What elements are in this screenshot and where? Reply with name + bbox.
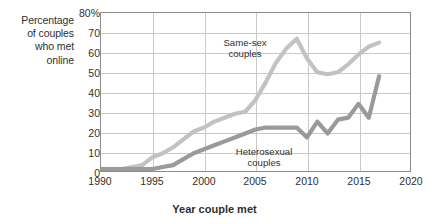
y-tick-80: 80% [66,8,100,18]
y-tick-70: 70 [74,28,100,38]
annotation-heterosexual-couples: Heterosexual couples [221,146,307,168]
x-tick-2010: 2010 [287,176,327,187]
x-tick-1990: 1990 [80,176,120,187]
plot-area: Same-sex couples Heterosexual couples [100,12,411,172]
y-axis-caption-line-1: Percentage [2,14,74,27]
annotation-same-sex-line-2: couples [209,48,281,59]
y-tick-30: 30 [74,108,100,118]
y-axis-caption-line-4: online [2,54,74,67]
y-axis-caption-line-2: of couples [2,27,74,40]
x-tick-2005: 2005 [235,176,275,187]
y-tick-60: 60 [74,48,100,58]
annotation-heterosexual-line-1: Heterosexual [236,146,293,157]
chart-container: Percentage of couples who met online 80%… [0,0,429,224]
annotation-same-sex-couples: Same-sex couples [209,37,281,59]
x-tick-2020: 2020 [391,176,429,187]
annotation-heterosexual-line-2: couples [221,157,307,168]
x-tick-2015: 2015 [339,176,379,187]
x-tick-1995: 1995 [132,176,172,187]
y-tick-20: 20 [74,128,100,138]
y-axis-caption-line-3: who met [2,40,74,53]
x-tick-2000: 2000 [184,176,224,187]
y-tick-40: 40 [74,88,100,98]
y-tick-50: 50 [74,68,100,78]
annotation-same-sex-line-1: Same-sex [223,37,266,48]
y-axis-caption: Percentage of couples who met online [2,14,74,67]
y-tick-10: 10 [74,148,100,158]
x-axis-title: Year couple met [0,203,429,215]
